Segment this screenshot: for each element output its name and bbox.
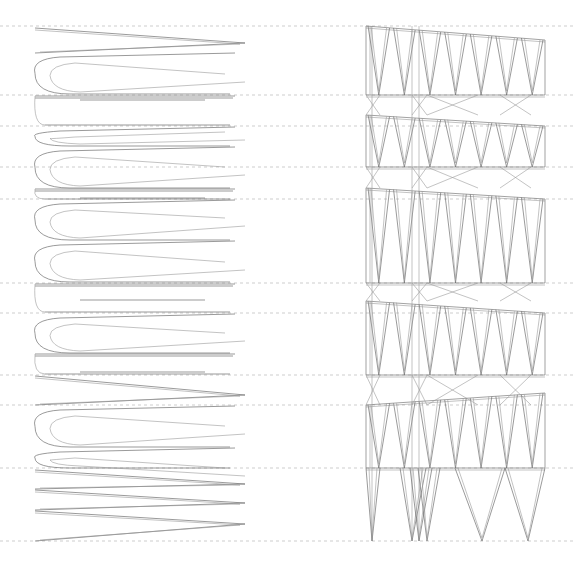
ramp-v — [35, 490, 245, 510]
ramp-flat — [35, 354, 235, 374]
ramp-loop — [35, 147, 235, 188]
ramp-loop — [35, 241, 235, 282]
truss-diagonal — [470, 308, 492, 375]
ramp-loop — [35, 53, 235, 94]
support-leg-inner — [458, 468, 502, 538]
truss-diagonal — [496, 123, 518, 167]
truss-diagonal — [496, 36, 518, 95]
ramp-loop-inner — [50, 416, 245, 445]
truss-diagonal — [368, 115, 390, 167]
truss-diagonal — [496, 196, 518, 283]
top-chord — [366, 26, 545, 40]
truss-diagonal — [470, 121, 492, 167]
ramp-loop — [35, 314, 235, 353]
support-leg-inner — [413, 468, 429, 538]
drawing-svg — [0, 0, 576, 579]
support-leg-inner — [421, 468, 437, 538]
ramp-v — [35, 28, 245, 53]
truss-diagonal-inner — [473, 121, 489, 163]
truss-diagonal — [470, 34, 492, 95]
truss-diagonal — [521, 38, 543, 95]
truss-diagonal — [521, 124, 543, 167]
top-chord-inner — [366, 28, 545, 42]
truss-diagonal — [419, 304, 441, 375]
top-chord — [366, 393, 545, 405]
truss-diagonal — [419, 400, 441, 468]
truss-diagonal-inner — [524, 124, 540, 163]
truss-diagonal — [521, 197, 543, 283]
ramp-flat-curve — [35, 96, 45, 125]
truss-diagonal — [496, 310, 518, 375]
truss-diagonal-inner — [499, 123, 515, 163]
ramp-flat-curve — [35, 284, 45, 312]
truss-diagonal — [496, 395, 518, 468]
ramp-v — [35, 376, 245, 405]
support-leg — [455, 468, 505, 541]
ramp-v-inner — [35, 30, 240, 52]
truss-diagonal — [445, 193, 467, 283]
ramp-v — [35, 511, 245, 541]
ramp-loop-inner — [50, 324, 245, 351]
top-chord — [366, 301, 545, 313]
truss-diagonal — [445, 120, 467, 167]
top-chord-inner — [366, 190, 545, 201]
ramp-loop-inner — [50, 210, 245, 238]
ramp-loop-inner — [50, 63, 245, 92]
ramp-flat-curve — [35, 354, 45, 374]
ramp-v — [35, 470, 245, 489]
truss-diagonal — [368, 403, 390, 468]
support-leg-inner — [369, 468, 377, 538]
truss-diagonal-inner — [422, 118, 438, 163]
truss-diagonal — [368, 26, 390, 95]
ramp-loop-inner — [50, 251, 245, 280]
truss-diagonal — [419, 191, 441, 283]
top-chord — [366, 115, 545, 126]
truss-diagonal — [419, 118, 441, 167]
ramp-flat — [35, 96, 235, 125]
truss-diagonal — [521, 393, 543, 468]
truss-diagonal — [368, 301, 390, 375]
ramp-loop-inner — [50, 132, 245, 144]
ramp-v-inner — [35, 378, 240, 404]
ramp-v-inner — [35, 472, 240, 488]
truss-diagonal — [445, 306, 467, 375]
ramp-loop-inner — [50, 157, 245, 186]
architectural-section-drawing — [0, 0, 576, 579]
ramp-flat-curve — [35, 189, 45, 199]
top-chord — [366, 188, 545, 199]
truss-diagonal-inner — [397, 117, 413, 163]
truss-diagonal — [419, 30, 441, 95]
support-leg — [366, 468, 380, 541]
truss-diagonal — [368, 188, 390, 283]
ramp-section-left — [35, 28, 245, 541]
truss-diagonal — [521, 311, 543, 375]
truss-diagonal — [445, 398, 467, 468]
ramp-flat — [35, 189, 235, 199]
truss-diagonal-inner — [371, 115, 387, 163]
level-datum-lines — [0, 26, 576, 541]
ramp-loop — [35, 406, 235, 447]
truss-diagonal — [470, 396, 492, 468]
ramp-flat — [35, 284, 235, 312]
truss-diagonal — [445, 32, 467, 95]
truss-diagonal — [470, 194, 492, 283]
truss-frame-section-right — [366, 26, 545, 541]
